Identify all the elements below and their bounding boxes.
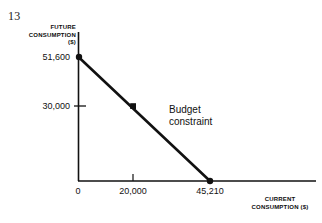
plot-area [0, 0, 322, 223]
figure-canvas: 13 FUTURE CONSUMPTION ($) CURRENT CONSUM… [0, 0, 322, 223]
data-point-x-intercept [207, 178, 213, 184]
data-point-y-intercept [76, 54, 82, 60]
data-point-midpoint [130, 103, 136, 109]
budget-constraint-line [79, 57, 211, 181]
